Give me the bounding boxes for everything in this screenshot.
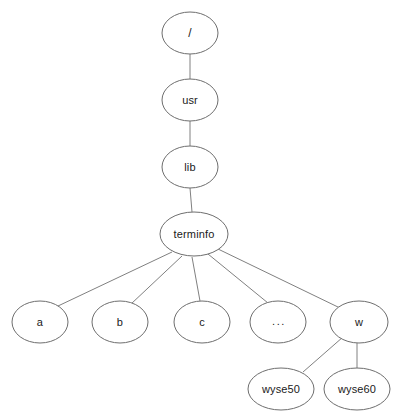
edge-terminfo-a: [58, 252, 172, 306]
node-ellipsis-label: ...: [272, 315, 286, 327]
node-wyse50-label: wyse50: [261, 383, 300, 395]
node-w[interactable]: w: [330, 301, 388, 343]
edge-terminfo-more: [208, 254, 268, 303]
node-c-label: c: [199, 316, 205, 328]
node-terminfo-label: terminfo: [174, 228, 215, 240]
edge-terminfo-c: [192, 257, 200, 301]
node-root-label: /: [188, 26, 192, 40]
node-terminfo[interactable]: terminfo: [160, 212, 228, 256]
node-usr[interactable]: usr: [162, 79, 218, 121]
node-wyse60[interactable]: wyse60: [324, 368, 390, 410]
node-a[interactable]: a: [12, 301, 68, 343]
node-w-label: w: [354, 316, 363, 328]
edge-lib-terminfo: [190, 188, 192, 212]
tree-diagram-canvas: / usr lib terminfo a b: [0, 0, 394, 417]
node-b-label: b: [117, 316, 123, 328]
node-group: / usr lib terminfo a b: [12, 12, 390, 410]
node-c[interactable]: c: [174, 301, 230, 343]
node-wyse60-label: wyse60: [337, 383, 376, 395]
node-lib-label: lib: [184, 161, 195, 173]
node-usr-label: usr: [182, 94, 198, 106]
node-b[interactable]: b: [92, 301, 148, 343]
node-wyse50[interactable]: wyse50: [248, 368, 314, 410]
node-root[interactable]: /: [162, 12, 218, 54]
edge-terminfo-b: [131, 256, 182, 304]
node-ellipsis[interactable]: ...: [250, 301, 306, 343]
edge-w-wyse50: [303, 337, 343, 372]
tree-diagram: / usr lib terminfo a b: [0, 0, 394, 417]
edge-terminfo-w: [218, 249, 340, 308]
node-lib[interactable]: lib: [162, 146, 218, 188]
node-a-label: a: [37, 316, 44, 328]
